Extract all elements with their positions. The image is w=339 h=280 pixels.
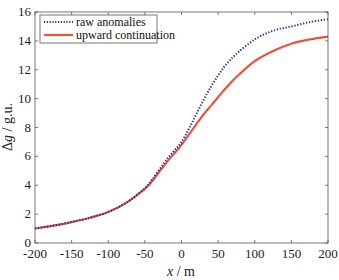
y-tick-label: 8 (25, 120, 32, 135)
series-upward-continuation (35, 37, 328, 229)
y-tick-label: 12 (18, 62, 31, 77)
series-raw-anomalies (35, 19, 328, 228)
legend-label-upward-continuation: upward continuation (76, 28, 175, 42)
y-tick-label: 10 (18, 91, 31, 106)
x-tick-label: 50 (212, 246, 225, 261)
x-tick-label: 0 (178, 246, 185, 261)
x-tick-label: -100 (96, 246, 120, 261)
y-tick-label: 6 (25, 148, 32, 163)
line-chart: -200-150-100-50050100150200 024681012141… (0, 0, 339, 280)
legend-label-raw-anomalies: raw anomalies (76, 15, 146, 29)
y-tick-label: 4 (25, 177, 32, 192)
x-tick-label: 150 (282, 246, 302, 261)
series-layer (35, 19, 328, 228)
legend: raw anomalies upward continuation (40, 15, 175, 43)
y-tick-label: 16 (18, 4, 32, 19)
x-axis-label: x / m (166, 264, 195, 279)
x-tick-label: -150 (60, 246, 84, 261)
x-axis-ticks: -200-150-100-50050100150200 (23, 12, 338, 261)
x-tick-label: 200 (318, 246, 338, 261)
x-tick-label: -50 (136, 246, 153, 261)
y-tick-label: 14 (18, 33, 32, 48)
y-axis-label: Δg / g.u. (0, 103, 15, 151)
x-tick-label: 100 (245, 246, 265, 261)
y-tick-label: 2 (25, 206, 32, 221)
y-tick-label: 0 (25, 235, 32, 250)
